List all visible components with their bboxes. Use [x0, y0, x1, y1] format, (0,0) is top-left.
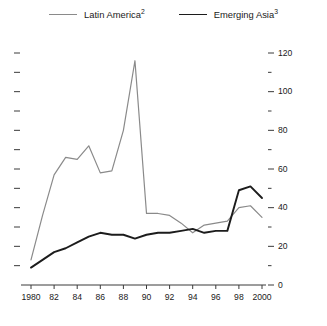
- data-series-group: [31, 61, 262, 268]
- x-axis-tick-label: 82: [49, 292, 59, 302]
- x-axis-tick-label: 90: [142, 292, 152, 302]
- x-axis: [21, 285, 266, 289]
- x-axis-tick-label: 98: [234, 292, 244, 302]
- x-axis-tick-label: 2000: [252, 292, 271, 302]
- x-axis-tick-label: 1980: [21, 292, 40, 302]
- y-axis-tick-label: 80: [278, 125, 288, 135]
- y-axis-tick-label: 40: [278, 202, 288, 212]
- y-axis-left-ticks: [14, 53, 20, 266]
- y-axis-tick-label: 120: [278, 48, 292, 58]
- x-axis-tick-label: 84: [72, 292, 82, 302]
- y-axis-tick-label: 20: [278, 241, 288, 251]
- x-axis-tick-label: 96: [211, 292, 221, 302]
- chart-figure: Latin America2 Emerging Asia3 0204060801…: [0, 0, 327, 326]
- y-axis-tick-label: 0: [278, 280, 283, 290]
- y-axis-tick-label: 60: [278, 164, 288, 174]
- series-line-emerging-asia: [31, 186, 262, 267]
- x-axis-tick-label: 94: [188, 292, 198, 302]
- x-axis-tick-label: 86: [96, 292, 106, 302]
- y-axis-right-ticks: [268, 53, 274, 285]
- y-axis-tick-label: 100: [278, 86, 292, 96]
- x-axis-tick-label: 88: [119, 292, 129, 302]
- x-axis-tick-label: 92: [165, 292, 175, 302]
